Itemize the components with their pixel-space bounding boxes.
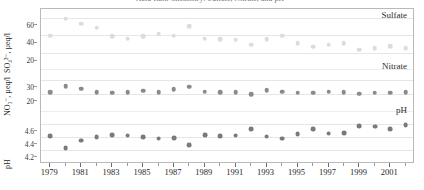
x-tick-label-1985: 1985 [134, 167, 151, 177]
data-point-ph-1992 [249, 127, 254, 132]
y-tick-label-sulfate-60: 60 [27, 20, 35, 29]
data-point-sulfate-1986 [156, 31, 161, 36]
x-tick-label-1987: 1987 [164, 167, 181, 177]
data-point-nitrate-1990 [218, 90, 223, 95]
x-tick-label-1997: 1997 [319, 167, 336, 177]
acid-deposition-chart-figure: Acid Rain Chemistry: Sulfate, Nitrate, a… [0, 0, 424, 190]
panel-separator [41, 69, 413, 70]
data-point-sulfate-1985 [141, 34, 146, 39]
data-point-ph-1996 [311, 127, 316, 132]
data-point-nitrate-1983 [110, 91, 115, 96]
data-point-sulfate-1988 [187, 24, 192, 29]
gridline-sulfate-60 [41, 18, 413, 19]
axis-title-sulfate: SO₄²⁻, µeq/l [3, 33, 12, 73]
data-point-nitrate-1991 [233, 90, 238, 95]
data-point-ph-1993 [264, 134, 269, 139]
data-point-sulfate-1991 [233, 38, 238, 43]
data-point-sulfate-1987 [172, 34, 177, 39]
data-point-nitrate-1993 [264, 88, 269, 93]
data-point-sulfate-1980 [63, 17, 68, 22]
y-tick-label-ph-4.4: 4.4 [25, 139, 34, 148]
gridline-nitrate-30 [41, 80, 413, 81]
y-tick-mark [34, 60, 37, 61]
x-tick-1990 [219, 163, 220, 166]
data-point-nitrate-1987 [172, 87, 177, 92]
chart-title-clipped: Acid Rain Chemistry: Sulfate, Nitrate, a… [96, 0, 324, 3]
x-tick-1998 [343, 163, 344, 166]
x-tick-1992 [250, 163, 251, 166]
data-point-nitrate-1999 [357, 91, 362, 96]
data-point-sulfate-1983 [110, 34, 115, 39]
y-tick-label-ph-4.6: 4.6 [25, 126, 34, 135]
x-tick-1986 [158, 163, 159, 166]
data-point-ph-1988 [187, 143, 192, 148]
x-tick-1982 [96, 163, 97, 166]
data-point-sulfate-1990 [218, 37, 223, 42]
data-point-ph-1991 [233, 133, 238, 138]
data-point-nitrate-1998 [342, 90, 347, 95]
data-point-ph-1985 [141, 135, 146, 140]
data-point-sulfate-1989 [203, 36, 208, 41]
data-point-ph-1979 [48, 134, 53, 139]
data-point-nitrate-1984 [125, 90, 130, 95]
data-point-ph-2002 [403, 123, 408, 128]
data-point-nitrate-2002 [403, 90, 408, 95]
data-point-ph-1982 [94, 135, 99, 140]
data-point-ph-2001 [388, 127, 393, 132]
x-tick-1994 [281, 163, 282, 166]
y-tick-mark [34, 130, 37, 131]
data-point-sulfate-1996 [311, 44, 316, 49]
data-point-sulfate-1981 [79, 21, 84, 26]
data-point-ph-1990 [218, 134, 223, 139]
data-point-nitrate-2001 [388, 91, 393, 96]
series-label-nitrate: Nitrate [382, 61, 407, 71]
data-point-ph-1999 [357, 123, 362, 128]
data-point-sulfate-1982 [94, 25, 99, 30]
data-point-sulfate-2000 [373, 46, 378, 51]
data-point-sulfate-1993 [264, 37, 269, 42]
x-tick-label-1991: 1991 [226, 167, 243, 177]
axis-title-ph: pH [3, 159, 12, 169]
x-tick-label-1995: 1995 [288, 167, 305, 177]
data-point-ph-1989 [202, 132, 207, 137]
data-point-nitrate-1996 [311, 91, 316, 96]
data-point-ph-1983 [110, 132, 115, 137]
data-point-nitrate-1997 [326, 89, 331, 94]
data-point-sulfate-1984 [125, 36, 130, 41]
x-tick-label-2001: 2001 [381, 167, 398, 177]
data-point-ph-1997 [326, 131, 331, 136]
x-tick-label-1989: 1989 [195, 167, 212, 177]
data-point-nitrate-1985 [141, 89, 146, 94]
y-tick-label-sulfate-20: 20 [27, 56, 35, 65]
data-point-ph-1981 [79, 138, 84, 143]
data-point-ph-1986 [156, 136, 161, 141]
data-point-ph-1995 [295, 132, 300, 137]
y-tick-mark [34, 143, 37, 144]
data-point-sulfate-1995 [295, 41, 300, 46]
y-tick-mark [34, 156, 37, 157]
data-point-ph-1980 [63, 146, 68, 151]
data-point-nitrate-1982 [94, 90, 99, 95]
data-point-ph-1984 [125, 133, 130, 138]
data-point-nitrate-1980 [63, 84, 68, 89]
y-tick-label-nitrate-20: 20 [27, 96, 35, 105]
data-point-sulfate-1999 [357, 47, 362, 52]
x-tick-1980 [65, 163, 66, 166]
x-tick-label-1979: 1979 [41, 167, 58, 177]
panel-separator [41, 111, 413, 112]
data-point-nitrate-1981 [79, 86, 84, 91]
gridline-sulfate-20 [41, 53, 413, 54]
data-point-sulfate-2002 [403, 46, 408, 51]
y-tick-mark [34, 24, 37, 25]
data-point-nitrate-1992 [249, 92, 254, 97]
x-tick-1988 [188, 163, 189, 166]
data-point-nitrate-1988 [187, 84, 192, 89]
x-axis-label-row: 1979198119831985198719891991199319951997… [40, 167, 414, 183]
y-tick-label-nitrate-30: 30 [27, 82, 35, 91]
data-point-sulfate-2001 [388, 44, 393, 49]
y-tick-label-ph-4.2: 4.2 [25, 152, 34, 161]
y-tick-mark [34, 42, 37, 43]
data-point-sulfate-1992 [249, 42, 254, 47]
data-point-sulfate-1997 [326, 42, 331, 47]
series-label-sulfate: Sulfate [382, 10, 408, 20]
